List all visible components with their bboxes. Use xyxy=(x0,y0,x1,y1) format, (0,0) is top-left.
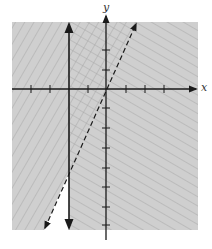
x-axis-label: x xyxy=(201,81,207,94)
inequality-graph xyxy=(0,0,212,249)
hatch-right-region xyxy=(69,22,198,230)
y-axis-label: y xyxy=(103,1,109,14)
